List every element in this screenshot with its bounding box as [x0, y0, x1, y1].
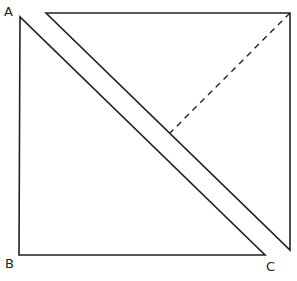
dashed-altitude [170, 13, 290, 133]
label-b: B [5, 256, 14, 271]
diagram-canvas: A B C [0, 0, 297, 281]
upper-triangle [46, 13, 290, 250]
triangle-abc [19, 17, 265, 255]
label-a: A [4, 4, 13, 19]
label-c: C [266, 259, 275, 274]
